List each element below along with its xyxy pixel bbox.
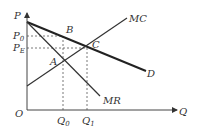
origin-label: O bbox=[15, 108, 23, 119]
mr-curve bbox=[27, 22, 100, 96]
point-a-label: A bbox=[49, 56, 57, 67]
q1-label: Q1 bbox=[82, 115, 95, 128]
mr-label: MR bbox=[102, 95, 121, 106]
mc-label: MC bbox=[128, 13, 147, 24]
point-b-label: B bbox=[65, 24, 73, 35]
pe-label: PE bbox=[12, 42, 25, 55]
x-axis-label: Q bbox=[179, 106, 187, 117]
demand-curve bbox=[27, 22, 146, 71]
y-axis-label: P bbox=[13, 10, 21, 21]
monopoly-diagram: P Q O P0 PE Q0 Q1 B C A MC D MR bbox=[0, 0, 197, 131]
point-c-label: C bbox=[92, 39, 100, 50]
q0-label: Q0 bbox=[57, 115, 70, 128]
d-label: D bbox=[146, 68, 155, 79]
